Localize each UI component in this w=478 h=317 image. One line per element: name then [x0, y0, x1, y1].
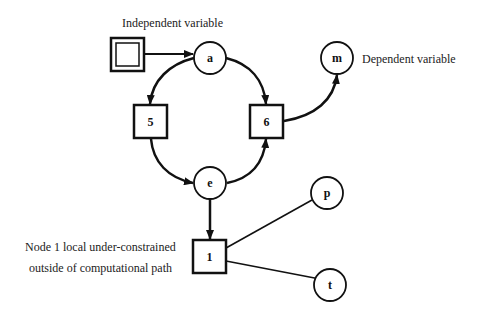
independent-variable-label: Independent variable [122, 16, 223, 30]
edge-1-t [226, 261, 325, 280]
node-5-label: 5 [148, 115, 154, 129]
node-p[interactable]: p [311, 177, 343, 209]
node-6[interactable]: 6 [250, 105, 283, 138]
node-a-label: a [207, 51, 213, 65]
node-t[interactable]: t [314, 269, 346, 301]
edge-6-m [284, 75, 337, 121]
node-6-label: 6 [264, 115, 270, 129]
node-p-label: p [324, 186, 331, 200]
node-t-label: t [328, 278, 332, 292]
constraint-graph: a 5 6 e m 1 p t Independent variable Dep… [0, 0, 478, 317]
edge-5-e [151, 139, 193, 183]
edge-e-6 [227, 139, 266, 183]
node-5[interactable]: 5 [134, 105, 167, 138]
node1-note-line2: outside of computational path [29, 261, 172, 275]
node-e[interactable]: e [194, 167, 226, 199]
node-source[interactable] [111, 38, 144, 71]
edge-1-p [226, 200, 312, 248]
node-e-label: e [207, 176, 213, 190]
node-1[interactable]: 1 [193, 240, 226, 273]
edge-a-6 [226, 58, 266, 104]
edge-a-5 [150, 58, 194, 104]
node-a[interactable]: a [194, 42, 226, 74]
node-m-label: m [332, 51, 342, 65]
node-m[interactable]: m [321, 42, 353, 74]
node1-note-line1: Node 1 local under-constrained [25, 240, 176, 254]
node-1-label: 1 [207, 250, 213, 264]
dependent-variable-label: Dependent variable [362, 52, 456, 66]
